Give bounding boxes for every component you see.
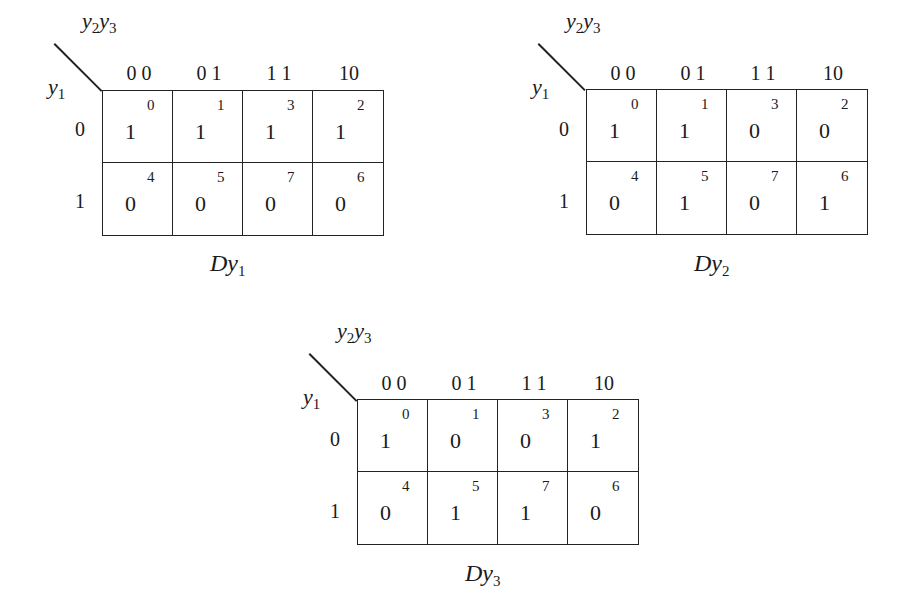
column-variables-label: y2y3	[82, 8, 117, 37]
kmap-grid: 10 11 03 02 04 15 07 16	[586, 89, 868, 235]
cell-value: 1	[450, 500, 461, 526]
cell-index: 4	[631, 168, 639, 185]
kmap-cell: 03	[498, 400, 568, 472]
kmap-cell: 13	[243, 91, 313, 163]
cell-index: 4	[402, 478, 410, 495]
kmap-title: Dy3	[465, 560, 500, 590]
kmap-grid: 10 01 03 12 04 15 17 06	[357, 399, 639, 545]
row-variable-label: y1	[303, 384, 320, 413]
kmap-cell: 16	[797, 162, 867, 234]
row-header: 0	[325, 428, 345, 451]
cell-value: 0	[125, 191, 136, 217]
cell-index: 3	[771, 96, 779, 113]
kmap-cell: 02	[797, 90, 867, 162]
cell-value: 0	[609, 190, 620, 216]
cell-value: 1	[679, 118, 690, 144]
kmap-cell: 11	[657, 90, 727, 162]
kmap-cell: 01	[428, 400, 498, 472]
row-header: 1	[70, 190, 90, 213]
cell-value: 1	[609, 118, 620, 144]
kmap-dy1: y2y3 y1 0 0 0 1 1 1 10 0 1 10 11 13 12 0…	[32, 0, 402, 300]
kmap-cell: 05	[173, 163, 243, 235]
row-variable-label: y1	[48, 74, 65, 103]
cell-value: 1	[819, 190, 830, 216]
cell-index: 6	[841, 168, 849, 185]
column-header: 0 0	[359, 372, 429, 395]
kmap-cell: 04	[358, 472, 428, 544]
kmap-grid: 10 11 13 12 04 05 07 06	[102, 90, 384, 236]
column-header: 0 1	[658, 62, 728, 85]
kmap-dy2: y2y3 y1 0 0 0 1 1 1 10 0 1 10 11 03 02 0…	[516, 0, 886, 300]
row-variable-label: y1	[532, 74, 549, 103]
cell-index: 7	[542, 478, 550, 495]
cell-value: 0	[819, 118, 830, 144]
column-header: 1 1	[244, 62, 314, 85]
cell-index: 2	[612, 406, 620, 423]
column-header: 1 1	[728, 62, 798, 85]
cell-index: 2	[841, 96, 849, 113]
column-header: 0 1	[174, 62, 244, 85]
cell-index: 5	[701, 168, 709, 185]
cell-value: 1	[195, 119, 206, 145]
kmap-cell: 12	[313, 91, 383, 163]
cell-index: 1	[701, 96, 709, 113]
cell-value: 1	[265, 119, 276, 145]
cell-index: 6	[612, 478, 620, 495]
cell-value: 0	[195, 191, 206, 217]
column-header: 0 1	[429, 372, 499, 395]
kmap-cell: 15	[428, 472, 498, 544]
cell-value: 1	[125, 119, 136, 145]
column-variables-label: y2y3	[566, 8, 601, 37]
column-header: 0 0	[588, 62, 658, 85]
kmap-cell: 15	[657, 162, 727, 234]
cell-index: 1	[217, 97, 225, 114]
kmap-cell: 10	[358, 400, 428, 472]
cell-index: 5	[217, 169, 225, 186]
cell-value: 1	[590, 428, 601, 454]
column-variables-label: y2y3	[337, 318, 372, 347]
cell-index: 5	[472, 478, 480, 495]
kmap-cell: 12	[568, 400, 638, 472]
cell-index: 4	[147, 169, 155, 186]
row-header: 1	[554, 190, 574, 213]
cell-value: 0	[450, 428, 461, 454]
kmap-cell: 06	[313, 163, 383, 235]
kmap-cell: 04	[103, 163, 173, 235]
kmap-cell: 07	[727, 162, 797, 234]
kmap-cell: 10	[103, 91, 173, 163]
cell-index: 0	[402, 406, 410, 423]
kmap-cell: 03	[727, 90, 797, 162]
kmap-title: Dy2	[694, 250, 729, 280]
cell-index: 3	[542, 406, 550, 423]
kmap-cell: 17	[498, 472, 568, 544]
cell-value: 1	[335, 119, 346, 145]
kmap-title: Dy1	[210, 250, 245, 280]
cell-value: 0	[335, 191, 346, 217]
column-header: 0 0	[104, 62, 174, 85]
kmap-cell: 11	[173, 91, 243, 163]
column-header: 10	[569, 372, 639, 395]
row-header: 0	[554, 118, 574, 141]
row-header: 0	[70, 118, 90, 141]
cell-value: 0	[520, 428, 531, 454]
cell-index: 7	[287, 169, 295, 186]
kmap-cell: 04	[587, 162, 657, 234]
cell-value: 0	[749, 118, 760, 144]
cell-index: 7	[771, 168, 779, 185]
row-header: 1	[325, 500, 345, 523]
cell-value: 0	[265, 191, 276, 217]
kmap-cell: 10	[587, 90, 657, 162]
column-header: 10	[314, 62, 384, 85]
cell-value: 1	[380, 428, 391, 454]
column-header: 10	[798, 62, 868, 85]
cell-index: 0	[631, 96, 639, 113]
cell-index: 0	[147, 97, 155, 114]
cell-value: 0	[749, 190, 760, 216]
cell-value: 1	[679, 190, 690, 216]
cell-index: 2	[357, 97, 365, 114]
cell-index: 3	[287, 97, 295, 114]
cell-value: 0	[380, 500, 391, 526]
kmap-cell: 06	[568, 472, 638, 544]
cell-value: 0	[590, 500, 601, 526]
cell-index: 1	[472, 406, 480, 423]
